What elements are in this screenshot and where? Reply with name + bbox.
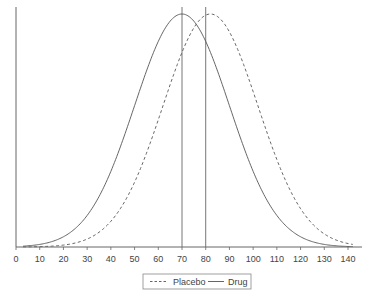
drug-curve: [23, 14, 353, 247]
chart: 0102030405060708090100110120130140 Place…: [0, 0, 374, 302]
x-axis-ticks: 0102030405060708090100110120130140: [13, 247, 355, 264]
legend-drug-label: Drug: [228, 277, 248, 287]
legend-placebo-label: Placebo: [173, 277, 206, 287]
placebo-curve: [23, 14, 353, 247]
x-tick-label: 130: [317, 254, 332, 264]
x-tick-label: 120: [293, 254, 308, 264]
x-tick-label: 90: [224, 254, 234, 264]
x-tick-label: 20: [58, 254, 68, 264]
x-tick-label: 110: [270, 254, 284, 264]
x-tick-label: 0: [13, 254, 18, 264]
x-tick-label: 70: [177, 254, 187, 264]
x-tick-label: 50: [130, 254, 140, 264]
x-tick-label: 140: [340, 254, 355, 264]
x-tick-label: 30: [82, 254, 92, 264]
x-tick-label: 40: [106, 254, 116, 264]
curves: [23, 14, 353, 247]
x-tick-label: 10: [35, 254, 45, 264]
x-tick-label: 80: [201, 254, 211, 264]
x-tick-label: 60: [153, 254, 163, 264]
x-tick-label: 100: [246, 254, 261, 264]
legend: Placebo Drug: [143, 274, 251, 289]
